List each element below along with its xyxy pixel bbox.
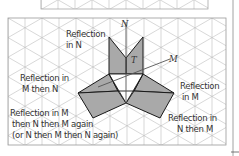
label-reflection-mnm-2: then N then M again [12,119,93,129]
label-reflection-mnm-3: (or N then M then N again) [12,130,118,140]
shape-reflection-n [109,37,126,74]
label-reflection-n-2: in N [66,40,82,50]
mirror-label-m: M [169,54,177,64]
label-reflection-m-1: Reflection [180,81,219,91]
label-reflection-mnm-1: Reflection in M [10,108,68,118]
shape-label-t: T [131,55,136,65]
shape-reflection-n-then-m [126,91,174,118]
label-reflection-nm-2: N then M [177,124,213,134]
label-reflection-mn-1: Reflection in [20,73,69,83]
label-reflection-m-2: in M [182,92,199,102]
shape-reflection-mnm [78,91,126,118]
mirror-label-n: N [121,19,128,29]
label-reflection-mn-2: M then N [22,84,58,94]
label-reflection-n-1: Reflection [66,29,105,39]
label-reflection-nm-1: Reflection in [168,113,217,123]
